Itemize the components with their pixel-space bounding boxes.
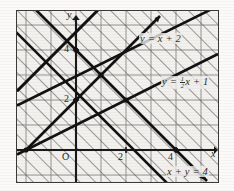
- y-tick-label-4: 4: [64, 43, 69, 54]
- equation-label-line1: y = x + 2: [139, 33, 182, 44]
- intersection-point-1-3: [98, 72, 103, 77]
- intersection-point-2-3: [123, 97, 128, 102]
- x-intercept-point-line3: [174, 148, 179, 153]
- origin-label: O: [62, 151, 69, 162]
- y-intercept-point-line2: [74, 98, 79, 103]
- equation-label-line3: x + y = 4: [166, 166, 209, 177]
- intersection-point-1-2: [23, 147, 28, 152]
- x-tick-label-2: 2: [118, 151, 123, 162]
- y-intercept-point-line1: [74, 48, 79, 53]
- figure-screenshot: y x O 2 4 2 4 y = x + 2 y = 12x + 1 x + …: [0, 0, 234, 191]
- y-axis-label: y: [67, 9, 71, 20]
- x-tick-label-4: 4: [168, 151, 173, 162]
- fraction-denominator: 2: [180, 83, 184, 89]
- equation-label-line2-prefix: y =: [162, 76, 180, 87]
- x-axis-label: x: [211, 148, 215, 159]
- equation-label-line2-fraction: 12: [180, 76, 184, 89]
- y-tick-label-2: 2: [64, 93, 69, 104]
- equation-label-line2-suffix: x + 1: [185, 76, 208, 87]
- graph-line-2: [17, 54, 218, 155]
- equation-label-line2: y = 12x + 1: [161, 76, 209, 89]
